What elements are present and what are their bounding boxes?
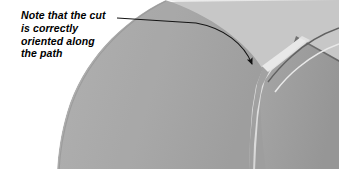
annotation-label: Note that the cut is correctly oriented … — [21, 9, 161, 60]
technical-illustration-figure: Note that the cut is correctly oriented … — [0, 0, 339, 175]
